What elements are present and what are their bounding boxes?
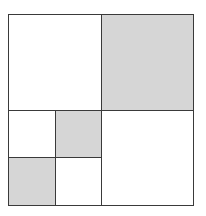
cell-lower-left-bottom-left [8,157,56,206]
cell-top-left [8,14,102,111]
cell-lower-left-top-left [8,110,56,158]
cell-top-right [101,14,194,111]
cell-lower-left-bottom-right [55,157,102,206]
cell-lower-left-top-right [55,110,102,158]
cell-bottom-right [101,110,194,206]
